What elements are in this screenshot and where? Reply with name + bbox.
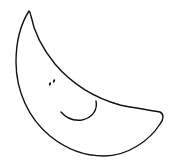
smile-icon: [61, 101, 96, 120]
left-eye-icon: [48, 82, 51, 86]
moon-svg: [0, 0, 174, 166]
crescent-moon-drawing: smiling crescent moon: [0, 0, 174, 166]
right-eye-icon: [52, 79, 55, 83]
moon-outline-icon: [16, 11, 163, 156]
